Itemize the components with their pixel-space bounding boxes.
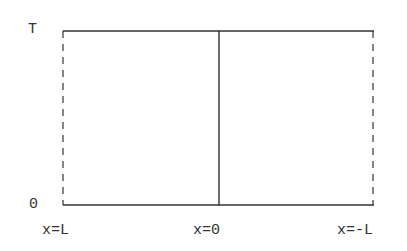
label-time-zero: 0 xyxy=(29,197,38,212)
domain-diagram xyxy=(0,0,407,251)
label-x-left: x=L xyxy=(42,223,69,238)
label-x-right: x=-L xyxy=(337,223,373,238)
label-time-top: T xyxy=(28,22,37,37)
label-x-center: x=0 xyxy=(193,223,220,238)
